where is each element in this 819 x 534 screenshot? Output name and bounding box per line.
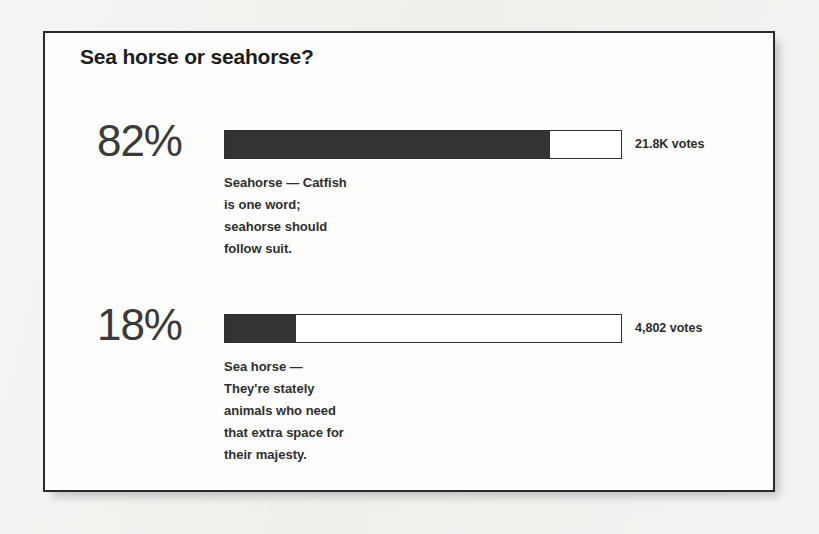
- option-2-votes: 4,802 votes: [635, 321, 702, 335]
- description-line: Sea horse —: [224, 356, 474, 378]
- option-1-percent: 82%: [45, 119, 182, 163]
- option-2-bar-fill: [225, 315, 296, 342]
- description-line: They're stately: [224, 378, 474, 400]
- poll-card: Sea horse or seahorse? 82% 21.8K votes S…: [43, 31, 775, 492]
- description-line: Seahorse — Catfish: [224, 172, 474, 194]
- option-2-bar-track: [224, 314, 622, 343]
- description-line: is one word;: [224, 194, 474, 216]
- option-2-description: Sea horse —They're statelyanimals who ne…: [224, 356, 474, 466]
- description-line: seahorse should: [224, 216, 474, 238]
- option-1-votes: 21.8K votes: [635, 137, 704, 151]
- description-line: that extra space for: [224, 422, 474, 444]
- option-1-bar-fill: [225, 131, 550, 158]
- option-2-percent: 18%: [45, 303, 182, 347]
- description-line: animals who need: [224, 400, 474, 422]
- page-title: Sea horse or seahorse?: [80, 45, 314, 69]
- option-1-description: Seahorse — Catfishis one word;seahorse s…: [224, 172, 474, 260]
- description-line: follow suit.: [224, 238, 474, 260]
- description-line: their majesty.: [224, 444, 474, 466]
- option-1-bar-track: [224, 130, 622, 159]
